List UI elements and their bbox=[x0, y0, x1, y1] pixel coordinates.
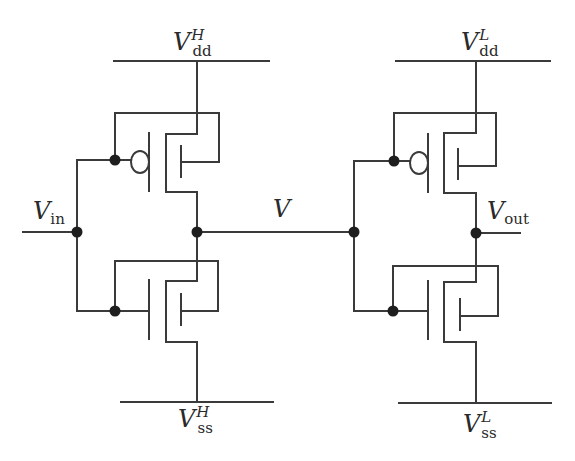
junction-dot bbox=[72, 227, 83, 238]
v-mid-label: V bbox=[273, 195, 293, 223]
junction-dot bbox=[389, 156, 400, 167]
pmos-inversion-bubble bbox=[410, 152, 428, 174]
pmos-inversion-bubble bbox=[131, 151, 149, 173]
vin-label: Vin bbox=[33, 197, 65, 228]
vout-label: Vout bbox=[487, 197, 529, 228]
junction-dot bbox=[349, 227, 360, 238]
pmos-transistor-low bbox=[354, 61, 496, 233]
nmos-transistor-high bbox=[77, 232, 218, 402]
junction-dot bbox=[388, 306, 399, 317]
level-shifter-schematic: VHdd VHss VLdd VLss Vin V Vout bbox=[0, 0, 575, 461]
junction-dot bbox=[110, 306, 121, 317]
vss-l-label: VLss bbox=[463, 408, 497, 442]
pmos-transistor-high bbox=[77, 61, 219, 232]
junction-dot bbox=[110, 155, 121, 166]
nmos-transistor-low bbox=[354, 233, 498, 403]
vdd-l-label: VLdd bbox=[461, 26, 499, 60]
vdd-h-label: VHdd bbox=[173, 26, 212, 60]
vss-h-label: VHss bbox=[178, 403, 213, 437]
junction-dot bbox=[471, 228, 482, 239]
inverter-stage-low bbox=[354, 61, 552, 403]
junction-dot bbox=[192, 227, 203, 238]
